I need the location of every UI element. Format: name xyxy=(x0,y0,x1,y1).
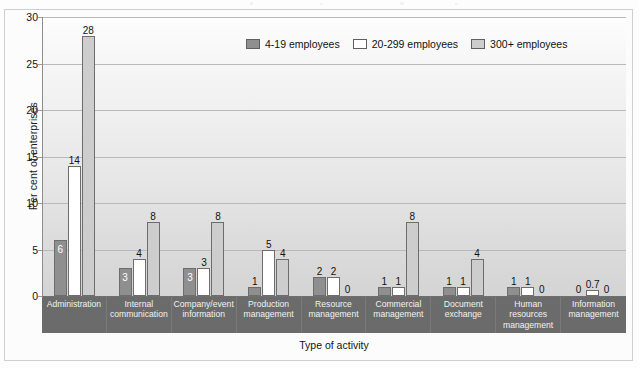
y-tick-mark xyxy=(38,17,42,18)
bar: 6 xyxy=(54,240,67,296)
bar-value-label: 0 xyxy=(604,284,610,295)
legend-item-20-299-employees: 20-299 employees xyxy=(353,38,458,50)
bar-value-label: 1 xyxy=(511,276,517,287)
bar-value-label: 14 xyxy=(69,155,80,166)
bar-group: 61428 xyxy=(43,17,108,296)
bar-value-label: 8 xyxy=(150,211,156,222)
x-axis-category-band: AdministrationInternal communicationComp… xyxy=(42,297,626,333)
bar: 0.7 xyxy=(586,290,599,297)
x-axis-category-label: Administration xyxy=(42,297,107,333)
bar: 8 xyxy=(147,222,160,296)
x-axis-category-label: Information management xyxy=(561,297,626,333)
bar: 3 xyxy=(119,268,132,296)
bar-value-label: 2 xyxy=(331,266,337,277)
legend-item-300-plus-employees: 300+ employees xyxy=(471,38,567,50)
bar-group: 118 xyxy=(367,17,432,296)
x-axis-category-label: Company/event information xyxy=(172,297,237,333)
bar: 4 xyxy=(276,259,289,296)
bar: 8 xyxy=(211,222,224,296)
bar-value-label: 3 xyxy=(201,257,207,268)
scan-artifact xyxy=(400,2,404,5)
chart-legend: 4-19 employees 20-299 employees 300+ emp… xyxy=(246,38,567,50)
bar-value-label: 3 xyxy=(187,272,193,283)
bar-value-label: 3 xyxy=(122,272,128,283)
y-tick-mark xyxy=(38,110,42,111)
bar-value-label: 1 xyxy=(252,276,258,287)
legend-label: 4-19 employees xyxy=(265,38,340,50)
y-tick-label: 30 xyxy=(16,11,38,23)
bar-group: 348 xyxy=(108,17,173,296)
bar-group: 154 xyxy=(237,17,302,296)
y-tick-label: 25 xyxy=(16,58,38,70)
bar: 1 xyxy=(248,287,261,296)
bar: 1 xyxy=(392,287,405,296)
y-tick-label: 15 xyxy=(16,151,38,163)
x-axis-category-label: Human resources management xyxy=(496,297,561,333)
bar: 1 xyxy=(521,287,534,296)
bar: 5 xyxy=(262,250,275,297)
bar: 1 xyxy=(507,287,520,296)
bar-group: 220 xyxy=(302,17,367,296)
bar-value-label: 6 xyxy=(58,244,64,255)
legend-label: 300+ employees xyxy=(490,38,567,50)
bar-value-label: 4 xyxy=(280,248,286,259)
legend-swatch-icon xyxy=(246,39,260,49)
x-axis-category-label: Internal communication xyxy=(107,297,172,333)
x-axis-category-label: Production management xyxy=(237,297,302,333)
bar-value-label: 8 xyxy=(215,211,221,222)
bar-value-label: 4 xyxy=(474,248,480,259)
bar-value-label: 1 xyxy=(446,276,452,287)
y-tick-mark xyxy=(38,157,42,158)
y-tick-label: 10 xyxy=(16,197,38,209)
bar-value-label: 4 xyxy=(136,248,142,259)
bar-value-label: 1 xyxy=(395,276,401,287)
bar-value-label: 1 xyxy=(525,276,531,287)
bar: 4 xyxy=(471,259,484,296)
bar-value-label: 0 xyxy=(576,284,582,295)
legend-swatch-icon xyxy=(471,39,485,49)
bar-value-label: 8 xyxy=(409,211,415,222)
bar-group: 00.70 xyxy=(561,17,626,296)
bar: 1 xyxy=(378,287,391,296)
y-tick-mark xyxy=(38,250,42,251)
scan-artifact xyxy=(320,3,323,5)
plot-area: 6142834833815422011811411000.70 xyxy=(42,17,626,297)
y-axis-tick-labels: 051015202530 xyxy=(14,0,38,368)
bar-value-label: 0 xyxy=(539,284,545,295)
x-axis-title: Type of activity xyxy=(42,339,626,351)
scan-artifact xyxy=(250,2,253,5)
bar-value-label: 5 xyxy=(266,239,272,250)
bar-value-label: 0 xyxy=(345,284,351,295)
bar-group: 110 xyxy=(496,17,561,296)
bar-value-label: 0.7 xyxy=(586,279,600,290)
bar: 2 xyxy=(327,277,340,296)
bar: 14 xyxy=(68,166,81,296)
y-tick-mark xyxy=(38,296,42,297)
scan-artifact xyxy=(455,3,458,5)
bar-value-label: 2 xyxy=(317,266,323,277)
bar: 3 xyxy=(183,268,196,296)
bar-value-label: 1 xyxy=(460,276,466,287)
x-axis-category-label: Resource management xyxy=(302,297,367,333)
bar: 8 xyxy=(406,222,419,296)
bar: 3 xyxy=(197,268,210,296)
bar-value-label: 1 xyxy=(381,276,387,287)
y-tick-mark xyxy=(38,203,42,204)
legend-swatch-icon xyxy=(353,39,367,49)
bar-value-label: 28 xyxy=(83,25,94,36)
legend-item-4-19-employees: 4-19 employees xyxy=(246,38,340,50)
bar: 4 xyxy=(133,259,146,296)
chart-figure: Per cent of enterprises 051015202530 614… xyxy=(0,0,639,368)
bar-group: 114 xyxy=(432,17,497,296)
x-axis-category-label: Document exchange xyxy=(431,297,496,333)
bar: 2 xyxy=(313,277,326,296)
y-tick-label: 20 xyxy=(16,104,38,116)
y-tick-mark xyxy=(38,64,42,65)
y-tick-label: 0 xyxy=(16,290,38,302)
legend-label: 20-299 employees xyxy=(372,38,458,50)
bar: 1 xyxy=(457,287,470,296)
y-tick-label: 5 xyxy=(16,244,38,256)
bar-group: 338 xyxy=(173,17,238,296)
x-axis-category-label: Commercial management xyxy=(366,297,431,333)
bar: 28 xyxy=(82,36,95,296)
